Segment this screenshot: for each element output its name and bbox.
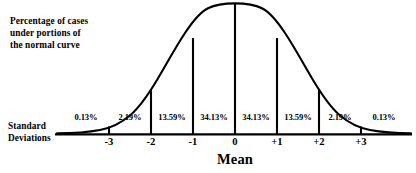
band-percent-label: 13.59% <box>284 112 311 123</box>
band-percent-label: 34.13% <box>242 112 269 123</box>
normal-curve-figure: Percentage of cases under portions of th… <box>0 0 416 173</box>
x-axis-tick-label: 0 <box>232 135 237 149</box>
x-axis-tick-label: -1 <box>189 135 198 149</box>
band-percent-label: 34.13% <box>200 112 227 123</box>
x-axis-tick-label: +2 <box>313 135 324 149</box>
x-axis-title: Standard Deviations <box>8 121 51 145</box>
x-axis-tick-label: +1 <box>271 135 282 149</box>
figure-caption: Percentage of cases under portions of th… <box>10 16 88 52</box>
caption-line-1: Percentage of cases <box>10 16 88 28</box>
caption-line-2: under portions of <box>10 28 88 40</box>
x-axis-tick-label: -2 <box>147 135 156 149</box>
band-percent-label: 0.13% <box>74 112 97 123</box>
band-percent-label: 13.59% <box>158 112 185 123</box>
x-axis-tick-label: +3 <box>355 135 366 149</box>
band-percent-label: 0.13% <box>372 112 395 123</box>
mean-label: Mean <box>217 150 253 169</box>
axis-title-line-1: Standard <box>8 121 51 133</box>
band-percent-label: 2.19% <box>118 112 141 123</box>
axis-title-line-2: Deviations <box>8 133 51 145</box>
band-percent-label: 2.19% <box>328 112 351 123</box>
x-axis-tick-label: -3 <box>105 135 114 149</box>
caption-line-3: the normal curve <box>10 40 88 52</box>
